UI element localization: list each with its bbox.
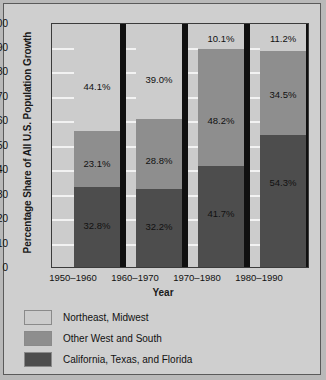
bar-shadow (182, 24, 188, 267)
legend-label: Other West and South (63, 333, 162, 344)
segment-other-west-south[interactable] (74, 131, 120, 187)
bar-group-1950-1960[interactable]: 44.1% 23.1% 32.8% (74, 24, 120, 267)
y-tick-100: 100 (0, 18, 8, 29)
legend-swatch-icon (24, 352, 52, 367)
legend-swatch-icon (24, 310, 52, 325)
segment-california-texas-florida[interactable] (260, 135, 306, 267)
bar-group-1970-1980[interactable]: 10.1% 48.2% 41.7% (198, 24, 244, 267)
y-axis-title: Percentage Share of All U.S. Population … (22, 23, 33, 263)
legend-label: Northeast, Midwest (63, 312, 149, 323)
y-tick-30: 30 (0, 189, 8, 200)
legend-label: California, Texas, and Florida (63, 354, 192, 365)
segment-other-west-south[interactable] (260, 51, 306, 135)
x-tick-1980-1990: 1980–1990 (222, 272, 296, 283)
segment-other-west-south[interactable] (198, 49, 244, 166)
y-tick-0: 0 (0, 262, 8, 273)
segment-other-west-south[interactable] (136, 119, 182, 189)
bar-group-1980-1990[interactable]: 11.2% 34.5% 54.3% (260, 24, 306, 267)
segment-northeast-midwest[interactable] (74, 24, 120, 131)
legend-item-northeast-midwest[interactable]: Northeast, Midwest (24, 307, 304, 328)
chart-legend: Northeast, Midwest Other West and South … (24, 307, 304, 370)
segment-northeast-midwest[interactable] (136, 24, 182, 119)
legend-item-other-west-south[interactable]: Other West and South (24, 328, 304, 349)
segment-northeast-midwest[interactable] (260, 24, 306, 51)
y-tick-70: 70 (0, 91, 8, 102)
segment-california-texas-florida[interactable] (74, 187, 120, 267)
bar-group-1960-1970[interactable]: 39.0% 28.8% 32.2% (136, 24, 182, 267)
segment-california-texas-florida[interactable] (136, 189, 182, 267)
y-tick-80: 80 (0, 66, 8, 77)
legend-swatch-icon (24, 331, 52, 346)
y-tick-10: 10 (0, 238, 8, 249)
y-tick-50: 50 (0, 140, 8, 151)
bar-shadow (306, 24, 308, 267)
y-tick-20: 20 (0, 213, 8, 224)
chart-figure: Percentage Share of All U.S. Population … (3, 3, 321, 375)
y-tick-90: 90 (0, 42, 8, 53)
legend-item-california-texas-florida[interactable]: California, Texas, and Florida (24, 349, 304, 370)
bar-shadow (120, 24, 126, 267)
x-axis-title: Year (4, 287, 322, 298)
segment-northeast-midwest[interactable] (198, 24, 244, 49)
y-tick-60: 60 (0, 115, 8, 126)
bar-shadow (244, 24, 250, 267)
plot-area: 44.1% 23.1% 32.8% 39.0% 28.8% 32.2% (51, 23, 309, 268)
segment-california-texas-florida[interactable] (198, 166, 244, 267)
y-tick-40: 40 (0, 164, 8, 175)
